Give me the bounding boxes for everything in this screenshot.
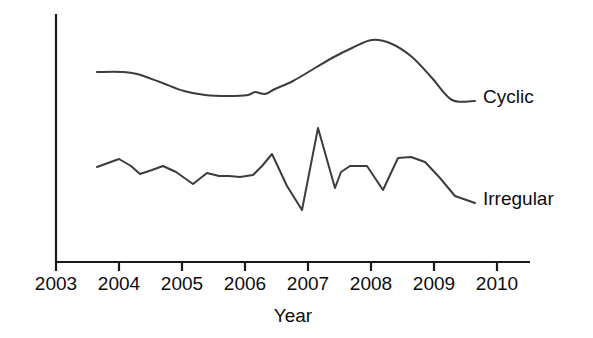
cyclic-series-label: Cyclic	[483, 86, 534, 107]
x-axis-tick-label: 2006	[224, 273, 266, 294]
irregular-series-label: Irregular	[483, 188, 554, 209]
x-axis-tick-label: 2007	[287, 273, 329, 294]
x-axis-tick-label: 2009	[413, 273, 455, 294]
x-axis-tick-label: 2005	[161, 273, 203, 294]
x-axis-tick-label: 2008	[350, 273, 392, 294]
x-axis-tick-label: 2010	[476, 273, 518, 294]
x-axis-tick-label: 2003	[35, 273, 77, 294]
chart-container: 20032004200520062007200820092010 Cyclic …	[0, 0, 593, 338]
x-axis-title: Year	[274, 305, 313, 326]
x-axis-tick-label: 2004	[98, 273, 141, 294]
time-series-chart: 20032004200520062007200820092010 Cyclic …	[0, 0, 593, 338]
